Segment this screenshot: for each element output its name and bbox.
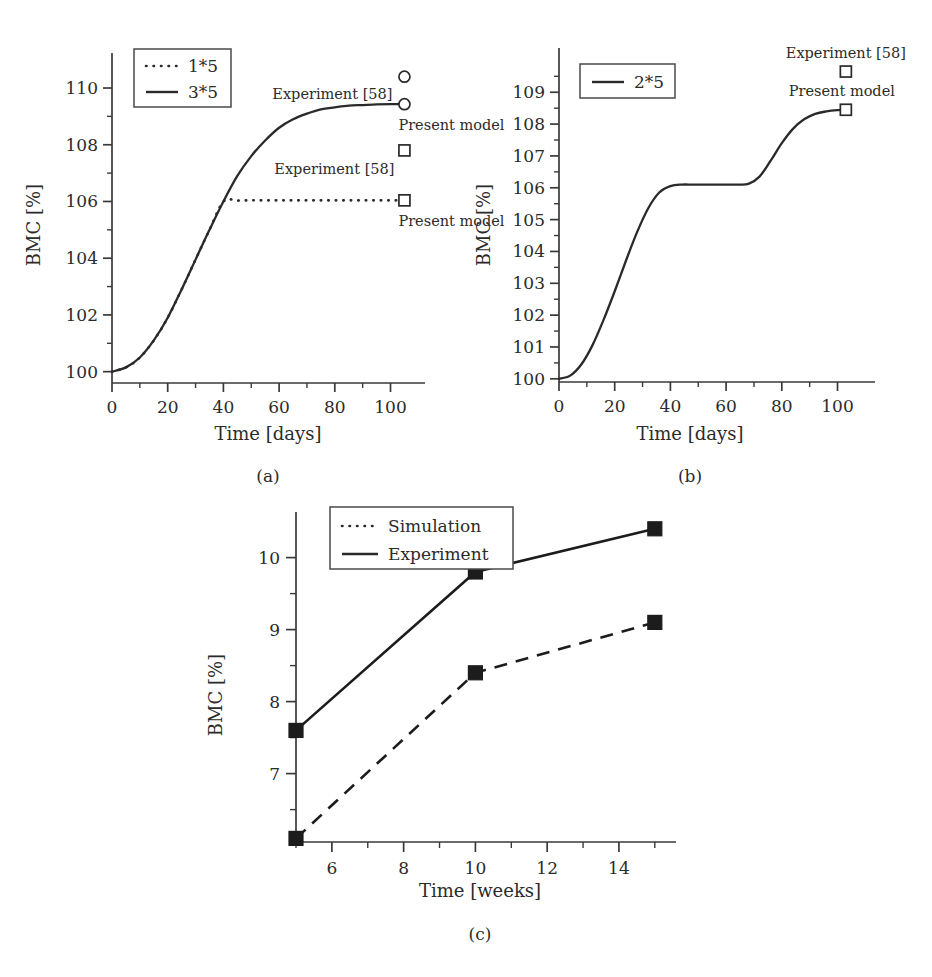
panel-b-y-tick-label: 103 <box>513 273 545 293</box>
panel-b-y-tick-label: 107 <box>513 146 545 166</box>
panel-a-series-35 <box>112 104 404 371</box>
panel-c-y-tick-label: 7 <box>269 764 280 784</box>
panel-b-y-tick-label: 101 <box>513 337 545 357</box>
panel-c-x-tick-label: 10 <box>465 858 487 878</box>
panel-b-x-tick-label: 80 <box>771 396 793 416</box>
panel-a: 020406080100100102104106108110 Experimen… <box>0 0 466 500</box>
panel-a-y-tick-label: 102 <box>66 305 98 325</box>
panel-c-caption: (c) <box>469 924 492 944</box>
panel-c: 6810121478910 SimulationExperiment Time … <box>180 485 752 977</box>
figure-container: 020406080100100102104106108110 Experimen… <box>0 0 932 977</box>
panel-c-x-tick-label: 14 <box>608 858 630 878</box>
panel-a-annotation-circle-marker <box>399 71 410 82</box>
panel-a-legend-label: 1*5 <box>188 56 218 76</box>
panel-b-y-tick-label: 108 <box>513 114 545 134</box>
panel-a-x-axis-title: Time [days] <box>215 423 322 444</box>
panel-b-y-axis-title: BMC [%] <box>473 184 494 266</box>
panel-c-curves <box>289 522 662 846</box>
panel-b-legend: 2*5 <box>580 64 675 98</box>
panel-c-x-tick-label: 12 <box>536 858 558 878</box>
panel-a-annotation-circle-marker <box>399 99 410 110</box>
panel-b-annotation-label: Present model <box>789 83 895 99</box>
panel-c-x-tick-label: 8 <box>398 858 409 878</box>
panel-b-y-tick-label: 109 <box>513 82 545 102</box>
panel-b-y-tick-label: 104 <box>513 241 545 261</box>
panel-b-x-tick-label: 60 <box>715 396 737 416</box>
panel-b-annotation-square-marker <box>840 104 851 115</box>
panel-b-chart: 0204060801001001011021031041051061071081… <box>450 0 932 500</box>
panel-b-y-tick-label: 102 <box>513 305 545 325</box>
panel-a-x-tick-label: 60 <box>268 397 290 417</box>
panel-a-annotation-label: Experiment [58] <box>274 161 394 177</box>
panel-c-x-axis-title: Time [weeks] <box>419 880 541 901</box>
panel-c-data-marker <box>289 831 303 845</box>
panel-b-x-tick-label: 0 <box>554 396 565 416</box>
panel-a-y-tick-label: 108 <box>66 135 98 155</box>
panel-a-x-tick-label: 100 <box>374 397 406 417</box>
panel-b-caption: (b) <box>678 466 702 486</box>
panel-a-x-tick-label: 0 <box>107 397 118 417</box>
panel-a-x-tick-label: 40 <box>213 397 235 417</box>
panel-b-annotation-label: Experiment [58] <box>786 45 906 61</box>
panel-a-y-tick-label: 110 <box>66 78 98 98</box>
panel-b-x-tick-label: 40 <box>660 396 682 416</box>
panel-a-caption: (a) <box>256 466 279 486</box>
panel-a-annotation-square-marker <box>399 195 410 206</box>
panel-c-data-marker <box>648 615 662 629</box>
panel-a-x-tick-label: 20 <box>157 397 179 417</box>
panel-b-y-tick-label: 105 <box>513 210 545 230</box>
panel-c-chart: 6810121478910 SimulationExperiment Time … <box>180 485 752 977</box>
panel-b-legend-label: 2*5 <box>634 72 664 92</box>
panel-c-series-simulation <box>296 622 655 838</box>
panel-c-data-marker <box>289 723 303 737</box>
panel-c-data-marker <box>648 522 662 536</box>
panel-b-x-tick-label: 100 <box>821 396 853 416</box>
panel-b-x-axis-title: Time [days] <box>637 423 744 444</box>
panel-b-y-tick-label: 100 <box>513 369 545 389</box>
panel-a-annotation-label: Experiment [58] <box>272 86 392 102</box>
panel-a-y-tick-label: 106 <box>66 191 98 211</box>
panel-b-x-tick-label: 20 <box>604 396 626 416</box>
panel-b-y-tick-label: 106 <box>513 178 545 198</box>
panel-b-annotation-square-marker <box>840 66 851 77</box>
panel-c-legend-label: Experiment <box>388 544 489 564</box>
panel-b-annotations: Experiment [58]Present model <box>786 45 906 116</box>
panel-c-x-tick-label: 6 <box>326 858 337 878</box>
panel-c-legend: SimulationExperiment <box>330 507 513 569</box>
panel-a-legend-label: 3*5 <box>188 82 218 102</box>
panel-c-y-axis-title: BMC [%] <box>205 654 226 736</box>
panel-a-x-tick-label: 80 <box>324 397 346 417</box>
panel-a-chart: 020406080100100102104106108110 Experimen… <box>0 0 466 500</box>
panel-a-curves <box>112 104 404 371</box>
panel-a-y-tick-label: 104 <box>66 248 98 268</box>
panel-a-legend: 1*53*5 <box>134 49 231 107</box>
panel-b-series-25 <box>559 110 846 379</box>
panel-c-y-tick-label: 9 <box>269 620 280 640</box>
panel-a-axes: 020406080100100102104106108110 <box>66 53 425 417</box>
panel-b-curves <box>559 110 846 379</box>
panel-c-data-marker <box>468 666 482 680</box>
panel-a-y-axis-title: BMC [%] <box>23 184 44 266</box>
panel-a-series-15 <box>112 199 404 372</box>
panel-a-y-tick-label: 100 <box>66 362 98 382</box>
panel-c-y-tick-label: 8 <box>269 692 280 712</box>
panel-c-y-tick-label: 10 <box>258 548 280 568</box>
panel-b-axes: 0204060801001001011021031041051061071081… <box>513 48 875 416</box>
panel-b: 0204060801001001011021031041051061071081… <box>450 0 932 500</box>
panel-c-legend-label: Simulation <box>388 516 481 536</box>
panel-a-annotation-square-marker <box>399 145 410 156</box>
